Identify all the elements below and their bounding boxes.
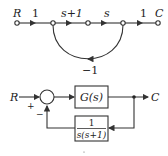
sfg-node-2 [51,21,55,25]
sfg-branch-gain-4: 1 [140,7,147,20]
bd-forward-block-label: G(s) [80,91,103,104]
bd-input-label: R [9,91,18,104]
bd-summing-junction [40,90,54,104]
bd-feedback-path-right [111,97,134,128]
bd-feedback-path-left [47,106,75,128]
stray-dot [83,151,84,152]
sfg-feedback-gain: −1 [82,64,98,77]
sfg-branch-gain-2: s+1 [61,7,83,20]
sfg-node-4 [121,21,125,25]
sfg-branch-gain-3: s [104,7,110,20]
bd-sum-plus-sign: + [27,101,35,111]
sfg-node-5 [156,21,160,25]
bd-feedback-denominator: s(s+1) [77,130,107,140]
sfg-node-1 [15,21,19,25]
sfg-output-label: C [155,7,164,20]
bd-output-label: C [151,91,160,104]
diagram-canvas: R 1 s+1 s 1 C −1 R + − G(s) [0,0,168,156]
bd-feedback-numerator: 1 [89,118,95,128]
sfg-feedback-arc [53,25,123,59]
bd-sum-minus-sign: − [36,109,44,119]
sfg-node-3 [86,21,90,25]
sfg-branch-gain-1: 1 [32,7,39,20]
signal-flow-graph: R 1 s+1 s 1 C −1 [12,7,164,77]
block-diagram: R + − G(s) C 1 s(s+1) [9,86,160,153]
sfg-input-label: R [12,7,21,20]
